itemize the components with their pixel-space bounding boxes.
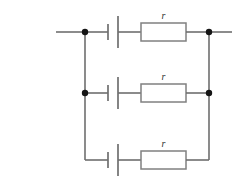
bottom-resistor-label: r (162, 138, 166, 149)
top-resistor-label: r (162, 10, 166, 21)
circuit-schematic: r r r (0, 0, 235, 177)
middle-resistor-symbol (141, 84, 186, 102)
junction-dot-middle-right (206, 90, 212, 96)
bottom-resistor-symbol (141, 151, 186, 169)
junction-dot-top-right (206, 29, 212, 35)
middle-resistor-label: r (162, 71, 166, 82)
circuit-diagram-canvas: r r r (0, 0, 235, 177)
top-resistor-symbol (141, 23, 186, 41)
junction-dot-middle-left (82, 90, 88, 96)
junction-dot-top-left (82, 29, 88, 35)
